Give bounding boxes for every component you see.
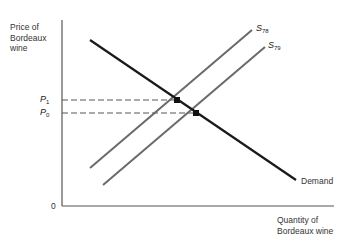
x-axis-label-line: Bordeaux wine [277,226,333,237]
supply-subscript: 78 [262,28,269,34]
x-axis-label: Quantity of Bordeaux wine [277,215,333,236]
y-axis-label: Price of Bordeaux wine [10,22,46,54]
price-subscript: 0 [46,112,49,118]
y-axis-label-line: Bordeaux [10,33,46,44]
price-label-p1: P1 [40,94,49,105]
demand-label: Demand [301,176,333,187]
supply-subscript: 79 [274,45,281,51]
supply-label-s78: S78 [256,23,269,34]
supply-curve-s79 [103,47,265,185]
price-subscript: 1 [46,99,49,105]
origin-label: 0 [51,201,56,212]
supply-label-s79: S79 [268,40,281,51]
equilibrium-point-p1 [174,97,180,103]
y-axis-label-line: Price of [10,22,46,33]
price-label-p0: P0 [40,107,49,118]
supply-curve-s78 [90,30,252,168]
equilibrium-point-p0 [193,110,199,116]
x-axis-label-line: Quantity of [277,215,333,226]
y-axis-label-line: wine [10,43,46,54]
supply-demand-diagram: Price of Bordeaux wine Quantity of Borde… [0,0,348,245]
